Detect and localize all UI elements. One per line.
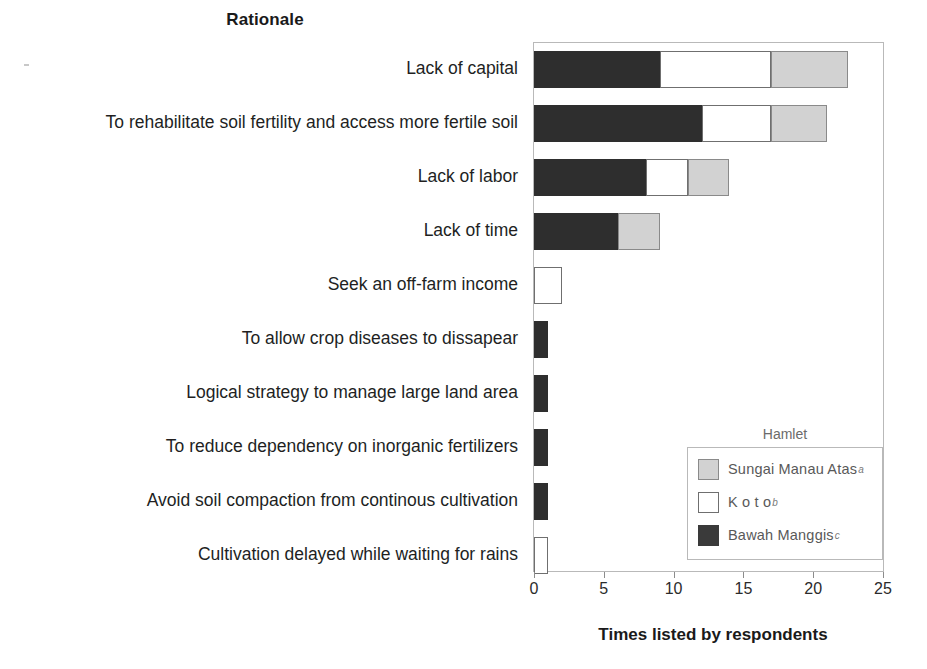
x-tick-mark xyxy=(674,572,675,578)
bar-segment xyxy=(534,213,618,250)
category-label: Seek an off-farm income xyxy=(0,274,518,294)
legend-title: Hamlet xyxy=(687,426,883,442)
legend-item[interactable]: Bawah Manggisc xyxy=(698,523,840,547)
x-tick-label: 15 xyxy=(723,580,763,598)
legend-footnote-marker: c xyxy=(835,530,840,541)
x-tick-mark xyxy=(604,572,605,578)
legend-swatch-dark xyxy=(698,525,719,546)
bar-segment xyxy=(534,321,548,358)
bar-segment xyxy=(771,105,827,142)
bar-row xyxy=(534,159,883,196)
bar-row xyxy=(534,321,883,358)
x-tick-label: 5 xyxy=(584,580,624,598)
legend-footnote-marker: a xyxy=(858,464,864,475)
category-label: To rehabilitate soil fertility and acces… xyxy=(0,112,518,132)
bar-segment xyxy=(534,375,548,412)
legend-footnote-marker: b xyxy=(772,497,778,508)
category-label: Lack of time xyxy=(0,220,518,240)
bar-segment xyxy=(771,51,848,88)
bar-row xyxy=(534,213,883,250)
x-tick-label: 0 xyxy=(514,580,554,598)
bar-row xyxy=(534,105,883,142)
bar-segment xyxy=(688,159,730,196)
bar-segment xyxy=(660,51,772,88)
category-label: Logical strategy to manage large land ar… xyxy=(0,382,518,402)
legend-box: Sungai Manau AtasaK o t obBawah Manggisc xyxy=(687,447,883,560)
bar-row xyxy=(534,267,883,304)
category-label: To allow crop diseases to dissapear xyxy=(0,328,518,348)
legend-swatch-gray xyxy=(698,459,719,480)
bar-row xyxy=(534,51,883,88)
x-axis-title: Times listed by respondents xyxy=(533,625,893,645)
category-label: Cultivation delayed while waiting for ra… xyxy=(0,544,518,564)
x-tick-mark xyxy=(813,572,814,578)
bar-segment xyxy=(534,483,548,520)
bar-segment xyxy=(534,105,702,142)
legend-label: Sungai Manau Atas xyxy=(728,461,857,477)
legend-label: K o t o xyxy=(728,494,771,510)
legend-label: Bawah Manggis xyxy=(728,527,834,543)
bar-segment xyxy=(534,51,660,88)
x-tick-mark xyxy=(883,572,884,578)
bar-segment xyxy=(702,105,772,142)
bar-segment xyxy=(534,537,548,574)
bar-segment xyxy=(534,159,646,196)
bar-segment xyxy=(534,429,548,466)
x-tick-label: 10 xyxy=(654,580,694,598)
bar-row xyxy=(534,375,883,412)
category-label: To reduce dependency on inorganic fertil… xyxy=(0,436,518,456)
category-label: Avoid soil compaction from continous cul… xyxy=(0,490,518,510)
chart-title: Rationale xyxy=(0,10,530,30)
bar-segment xyxy=(534,267,562,304)
bar-segment xyxy=(646,159,688,196)
category-label: Lack of capital xyxy=(0,58,518,78)
category-axis-labels: Lack of capitalTo rehabilitate soil fert… xyxy=(0,42,518,572)
x-tick-mark xyxy=(743,572,744,578)
bar-segment xyxy=(618,213,660,250)
x-tick-mark xyxy=(534,572,535,578)
legend-swatch-white xyxy=(698,492,719,513)
category-label: Lack of labor xyxy=(0,166,518,186)
x-tick-label: 20 xyxy=(793,580,833,598)
legend-item[interactable]: Sungai Manau Atasa xyxy=(698,457,864,481)
x-tick-label: 25 xyxy=(863,580,903,598)
x-axis: 0510152025 xyxy=(533,572,884,612)
legend-item[interactable]: K o t ob xyxy=(698,490,778,514)
scan-speck xyxy=(24,64,29,66)
